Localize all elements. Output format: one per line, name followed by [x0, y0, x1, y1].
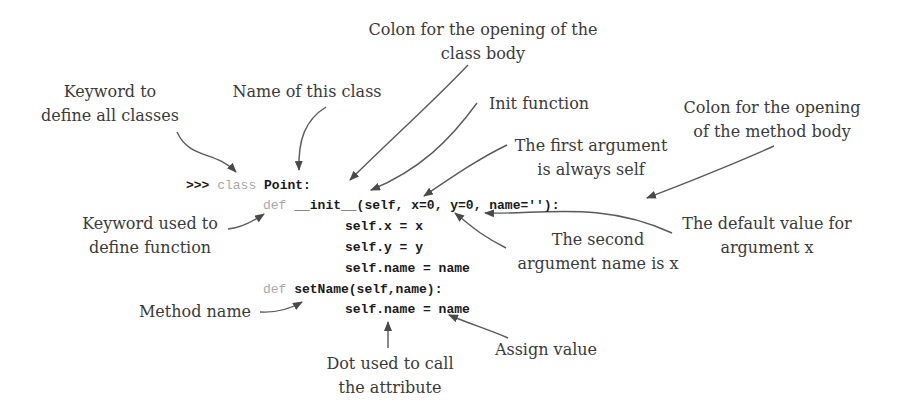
code-line-init: def __init__(self, x=0, y=0, name=''): — [263, 196, 559, 216]
arrow-keyword-def — [228, 214, 264, 229]
setname-signature: setName(self,name): — [286, 282, 442, 297]
code-line-setname: def setName(self,name): — [263, 280, 442, 300]
class-keyword: class — [217, 178, 256, 193]
def-keyword: def — [263, 282, 286, 297]
label-class-name: Name of this class — [222, 80, 392, 104]
arrow-class-name — [299, 107, 326, 170]
python-class-diagram: >>> class Point: def __init__(self, x=0,… — [0, 0, 908, 415]
prompt: >>> — [186, 178, 217, 193]
code-line-setname-body: self.name = name — [345, 300, 470, 320]
label-second-argument: The second argument name is x — [508, 228, 688, 276]
class-name: Point: — [256, 178, 311, 193]
def-keyword: def — [263, 198, 286, 213]
arrow-second-argument — [455, 213, 506, 248]
arrow-init-function — [371, 103, 477, 190]
label-colon-class-body: Colon for the opening of the class body — [338, 18, 628, 66]
label-keyword-class: Keyword to define all classes — [30, 80, 190, 128]
code-line-self-y: self.y = y — [345, 238, 423, 258]
label-first-argument: The first argument is always self — [506, 134, 676, 182]
code-line-self-x: self.x = x — [345, 217, 423, 237]
label-method-name: Method name — [130, 300, 260, 324]
label-keyword-def: Keyword used to define function — [70, 212, 230, 260]
init-signature: __init__(self, x=0, y=0, name=''): — [286, 198, 559, 213]
label-dot-attribute: Dot used to call the attribute — [320, 352, 460, 400]
arrow-first-argument — [424, 145, 507, 196]
code-line-self-name: self.name = name — [345, 259, 470, 279]
label-assign-value: Assign value — [486, 338, 606, 362]
code-line-class: >>> class Point: — [186, 176, 311, 196]
label-colon-method-body: Colon for the opening of the method body — [672, 96, 872, 144]
arrow-keyword-class — [177, 132, 236, 172]
label-init-function: Init function — [479, 92, 599, 116]
arrow-method-name — [260, 302, 302, 312]
label-default-value: The default value for argument x — [672, 212, 862, 260]
